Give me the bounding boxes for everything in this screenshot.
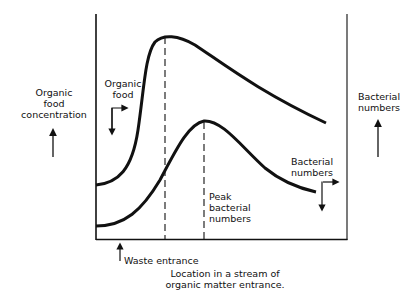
waste-entrance-label: Waste entrance [124,255,199,266]
label-line: bacterial [209,202,251,213]
organic-food-elbow-arrow-icon [112,108,125,130]
left-axis-label: Organic food concentration [14,87,94,120]
x-axis-label: Location in a stream of organic matter e… [140,268,310,290]
label-line: Bacterial [350,91,408,102]
label-line: Organic [14,87,94,98]
right-axis-label: Bacterial numbers [350,91,408,113]
label-line: Organic [104,78,142,89]
label-line: organic matter entrance. [140,279,310,290]
bacterial-numbers-curve [96,121,316,226]
diagram-canvas [0,0,414,298]
label-line: numbers [350,102,408,113]
label-line: numbers [209,213,251,224]
label-line: food [104,89,142,100]
organic-food-annotation: Organic food [104,78,142,100]
label-line: numbers [290,167,334,178]
label-line: Bacterial [290,156,334,167]
bacterial-numbers-annotation: Bacterial numbers [290,156,334,178]
label-line: concentration [14,109,94,120]
label-line: food [14,98,94,109]
peak-bacterial-annotation: Peak bacterial numbers [209,191,251,224]
label-line: Peak [209,191,251,202]
label-line: Location in a stream of [140,268,310,279]
